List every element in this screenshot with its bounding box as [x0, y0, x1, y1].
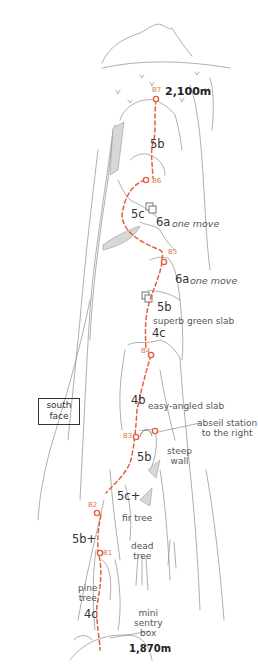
topo-drawing	[0, 0, 258, 666]
belay-label-b3: B3	[123, 432, 132, 440]
face-label-box: south face	[38, 398, 80, 425]
grade-label: 5b	[137, 452, 152, 463]
annotation-line: mini	[134, 608, 163, 618]
annotation-steep-wall: steep wall	[167, 446, 192, 466]
grade-label: 5c+	[117, 491, 140, 502]
annotation-mini-sentry-box: mini sentry box	[134, 608, 163, 638]
grade-label: 4c	[152, 328, 166, 339]
annotation-one-move: one move	[172, 218, 219, 229]
annotation-superb-slab: superb green slab	[153, 316, 234, 326]
annotation-line: dead	[131, 541, 153, 551]
annotation-line: box	[134, 628, 163, 638]
grade-label: 4b	[131, 395, 146, 406]
annotation-line: pine	[78, 583, 97, 593]
annotation-line: steep	[167, 446, 192, 456]
belay-label-b5: B5	[168, 248, 177, 256]
annotation-line: tree	[78, 593, 97, 603]
belay-label-b4: B4	[141, 347, 150, 355]
grade-label: 6a	[156, 217, 170, 228]
annotation-line: abseil station	[197, 418, 257, 428]
grade-label: 4c	[84, 609, 98, 620]
summit-altitude: 2,100m	[165, 86, 211, 97]
grade-label: 6a	[175, 274, 189, 285]
grade-label: 5c	[131, 209, 145, 220]
base-altitude: 1,870m	[129, 643, 171, 654]
belay-label-b7: B7	[152, 86, 161, 94]
annotation-line: tree	[131, 551, 153, 561]
abseil-leader-line	[158, 423, 200, 432]
annotation-abseil-station: abseil station to the right	[197, 418, 257, 438]
grade-label: 5b+	[72, 534, 96, 545]
belay-label-b6: B6	[152, 177, 161, 185]
annotation-fir-tree: fir tree	[122, 513, 152, 523]
belay-label-b1: B1	[103, 549, 112, 557]
annotation-one-move: one move	[190, 275, 237, 286]
annotation-easy-slab: easy-angled slab	[148, 401, 224, 411]
face-label-line: face	[39, 411, 79, 422]
belay-label-b2: B2	[88, 501, 97, 509]
rock-outlines	[38, 24, 230, 660]
annotation-dead-tree: dead tree	[131, 541, 153, 561]
annotation-pine-tree: pine tree	[78, 583, 97, 603]
grade-label: 5b	[150, 139, 165, 150]
face-label-line: south	[39, 400, 79, 411]
annotation-line: to the right	[197, 428, 257, 438]
annotation-line: wall	[167, 456, 192, 466]
annotation-line: sentry	[134, 618, 163, 628]
grade-label: 5b	[157, 302, 172, 313]
